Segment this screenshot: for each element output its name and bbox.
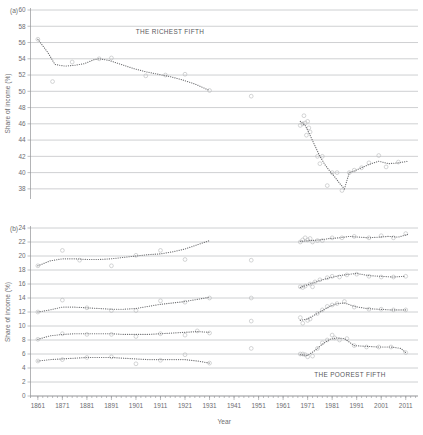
ytick-label-42: 42 (18, 153, 26, 160)
trendline-3 (300, 121, 408, 188)
data-point (208, 331, 212, 335)
data-point (367, 274, 371, 278)
ytick-label-12: 12 (18, 308, 26, 315)
xtick-label-1981: 1981 (325, 402, 340, 409)
figure-container: 384042444648505254565860(a)Share of inco… (0, 0, 423, 435)
series-markers-0 (36, 249, 253, 268)
data-point (249, 319, 253, 323)
xtick-label-1941: 1941 (227, 402, 242, 409)
ytick-label-14: 14 (18, 294, 26, 301)
data-point (325, 305, 329, 309)
xtick-label-1961: 1961 (276, 402, 291, 409)
ytick-label-24: 24 (18, 224, 26, 231)
xtick-label-2011: 2011 (399, 402, 413, 409)
xtick-label-1951: 1951 (251, 402, 266, 409)
ytick-label-54: 54 (18, 55, 26, 62)
data-point (311, 354, 315, 358)
data-point (305, 133, 309, 137)
ytick-label-20: 20 (18, 252, 26, 259)
data-point (208, 89, 212, 93)
ytick-label-56: 56 (18, 39, 26, 46)
data-point (311, 285, 315, 289)
series-markers-10 (298, 300, 407, 326)
xtick-label-2001: 2001 (374, 402, 389, 409)
x-axis: 1861187118811891190119111921193119411951… (31, 396, 419, 425)
series-markers-12 (36, 347, 253, 366)
ytick-label-10: 10 (18, 322, 26, 329)
ytick-label-2: 2 (22, 378, 26, 385)
trendline-2 (38, 39, 210, 90)
ytick-label-60: 60 (18, 6, 26, 13)
xtick-label-1911: 1911 (154, 402, 168, 409)
data-point (303, 236, 307, 240)
y-axis-title: Share of income (%) (4, 282, 12, 342)
data-point (302, 114, 306, 118)
annotation-richest: THE RICHEST FIFTH (136, 28, 204, 35)
data-point (60, 298, 64, 302)
data-point (298, 316, 302, 320)
data-point (70, 60, 74, 64)
data-point (134, 362, 138, 366)
data-point (85, 333, 89, 337)
data-point (144, 74, 148, 78)
series-markers-1 (298, 114, 400, 193)
series-markers-14 (298, 333, 407, 358)
data-point (183, 258, 187, 262)
annotation-poorest: THE POOREST FIFTH (314, 371, 386, 378)
data-point (110, 264, 114, 268)
data-point (60, 358, 64, 362)
data-point (325, 184, 329, 188)
panel-letter: (b) (10, 225, 18, 233)
ytick-label-6: 6 (22, 350, 26, 357)
xtick-label-1891: 1891 (104, 402, 119, 409)
ytick-label-44: 44 (18, 136, 26, 143)
ytick-label-38: 38 (18, 185, 26, 192)
data-point (377, 154, 381, 158)
ytick-label-52: 52 (18, 71, 26, 78)
data-point (51, 80, 55, 84)
data-point (159, 249, 163, 253)
data-point (298, 285, 302, 289)
ytick-label-22: 22 (18, 238, 26, 245)
series-markers-0 (36, 37, 253, 98)
panel-a: 384042444648505254565860(a)Share of inco… (4, 6, 418, 199)
data-point (134, 253, 138, 257)
ytick-label-0: 0 (22, 392, 26, 399)
data-point (183, 353, 187, 357)
data-point (249, 94, 253, 98)
data-point (384, 165, 388, 169)
data-point (301, 321, 305, 325)
data-point (159, 299, 163, 303)
income-share-figure: 384042444648505254565860(a)Share of inco… (0, 0, 423, 435)
data-point (340, 189, 344, 193)
ytick-label-48: 48 (18, 104, 26, 111)
y-axis-title: Share of income (%) (4, 73, 12, 133)
series-markers-6 (298, 272, 407, 289)
xtick-label-1921: 1921 (178, 402, 193, 409)
ytick-label-40: 40 (18, 169, 26, 176)
xtick-label-1901: 1901 (129, 402, 144, 409)
trendline-1 (38, 241, 210, 266)
xtick-label-1871: 1871 (55, 402, 70, 409)
ytick-label-8: 8 (22, 336, 26, 343)
series-markers-4 (36, 296, 253, 314)
panel-letter: (a) (10, 7, 18, 15)
panel-b: 024681012141618202224(b)Share of income … (4, 224, 418, 399)
data-point (60, 249, 64, 253)
trendline-11 (300, 303, 405, 321)
xtick-label-1861: 1861 (31, 402, 46, 409)
data-point (60, 332, 64, 336)
data-point (183, 333, 187, 337)
trendline-3 (300, 234, 408, 241)
ytick-label-50: 50 (18, 88, 26, 95)
data-point (318, 162, 322, 166)
ytick-label-46: 46 (18, 120, 26, 127)
xtick-label-1931: 1931 (202, 402, 217, 409)
ytick-label-16: 16 (18, 280, 26, 287)
data-point (249, 258, 253, 262)
x-axis-title: Year (218, 418, 232, 425)
trendline-5 (38, 297, 210, 312)
data-point (110, 333, 114, 337)
xtick-label-1881: 1881 (80, 402, 95, 409)
series-markers-8 (36, 319, 253, 341)
